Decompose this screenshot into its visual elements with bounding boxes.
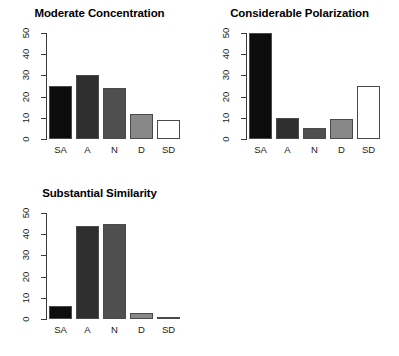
x-axis-tick-label: SD: [155, 324, 182, 336]
bar: [103, 224, 126, 319]
bar: [303, 128, 326, 139]
bar: [130, 313, 153, 319]
bar: [49, 86, 72, 139]
x-axis-tick-label: N: [301, 144, 328, 156]
y-axis-tick-label: 40: [21, 222, 31, 246]
y-axis-tick-label: 30: [221, 63, 231, 87]
y-axis-tick-label: 20: [21, 85, 31, 109]
x-axis-tick-label: D: [128, 144, 155, 156]
x-axis-labels: SAANDSD: [47, 322, 182, 336]
x-axis-labels: SAANDSD: [247, 142, 382, 156]
bar: [357, 86, 380, 139]
plot-area: 01020304050 SAANDSD: [26, 208, 186, 338]
x-axis-tick-label: SA: [47, 144, 74, 156]
bar: [157, 317, 180, 319]
bar: [76, 75, 99, 139]
x-axis-tick-label: N: [101, 144, 128, 156]
bar: [130, 114, 153, 139]
bar: [157, 120, 180, 139]
x-axis-tick-label: D: [328, 144, 355, 156]
chart-title: Substantial Similarity: [0, 186, 199, 200]
x-axis-tick-label: A: [74, 324, 101, 336]
y-axis-tick-label: 0: [221, 127, 231, 151]
y-axis-tick-label: 50: [21, 21, 31, 45]
y-axis-tick-label: 10: [21, 286, 31, 310]
y-axis-tick-label: 40: [221, 42, 231, 66]
x-axis-tick-label: D: [128, 324, 155, 336]
y-axis-tick: [41, 319, 47, 320]
plot-area: 01020304050 SAANDSD: [226, 28, 386, 158]
bar-group: [247, 33, 382, 139]
y-axis-tick-label: 50: [21, 201, 31, 225]
figure-canvas: Moderate Concentration 01020304050 SAAND…: [0, 0, 399, 356]
x-axis-tick-label: SA: [47, 324, 74, 336]
y-axis-tick-label: 0: [21, 127, 31, 151]
plot-area: 01020304050 SAANDSD: [26, 28, 186, 158]
x-axis-tick-label: SA: [247, 144, 274, 156]
bar-group: [47, 213, 182, 319]
bar: [103, 88, 126, 139]
x-axis-tick-label: A: [274, 144, 301, 156]
x-axis-tick-label: SD: [155, 144, 182, 156]
y-axis-tick-label: 10: [21, 106, 31, 130]
chart-panel-substantial-similarity: Substantial Similarity 01020304050 SAAND…: [0, 180, 199, 356]
y-axis-tick: [41, 139, 47, 140]
x-axis-labels: SAANDSD: [47, 142, 182, 156]
bar: [76, 226, 99, 319]
bar: [276, 118, 299, 139]
y-axis-tick-label: 20: [221, 85, 231, 109]
bar-group: [47, 33, 182, 139]
y-axis-tick-label: 30: [21, 63, 31, 87]
bar: [330, 119, 353, 139]
y-axis-tick-label: 10: [221, 106, 231, 130]
chart-title: Moderate Concentration: [0, 6, 199, 20]
chart-panel-empty: [200, 180, 399, 356]
y-axis-tick-label: 30: [21, 243, 31, 267]
y-axis-tick-label: 0: [21, 307, 31, 331]
x-axis-tick-label: SD: [355, 144, 382, 156]
x-axis-tick-label: N: [101, 324, 128, 336]
bar: [249, 33, 272, 139]
y-axis-tick-label: 20: [21, 265, 31, 289]
y-axis-tick-label: 50: [221, 21, 231, 45]
chart-title: Considerable Polarization: [200, 6, 399, 20]
chart-panel-considerable-polarization: Considerable Polarization 01020304050 SA…: [200, 0, 399, 178]
x-axis-tick-label: A: [74, 144, 101, 156]
y-axis-tick: [241, 139, 247, 140]
bar: [49, 306, 72, 319]
chart-panel-moderate-concentration: Moderate Concentration 01020304050 SAAND…: [0, 0, 199, 178]
y-axis-tick-label: 40: [21, 42, 31, 66]
